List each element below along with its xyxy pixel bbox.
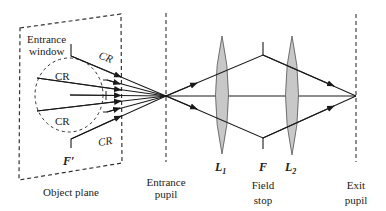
lower-ray <box>166 96 356 138</box>
entrance-window-label: Entrance window <box>27 33 66 57</box>
lens-l2-label: L2 <box>285 161 296 178</box>
field-stop-label-line2: stop <box>243 194 283 206</box>
optical-system-diagram <box>0 0 386 211</box>
cr-label-lower-right: CR <box>97 134 113 148</box>
field-stop-label-line1: Field <box>243 179 283 191</box>
cr-label-lower-left: CR <box>55 115 70 127</box>
field-stop-f-label: F <box>259 161 267 173</box>
entrance-window-tick-bottom <box>71 96 166 148</box>
entrance-window-tick-top <box>71 44 166 96</box>
lens-l1-subscript: 1 <box>222 167 226 176</box>
exit-pupil-label: Exit pupil <box>339 179 373 206</box>
entrance-window-label-line2: window <box>27 45 66 57</box>
entrance-pupil-label-line2: pupil <box>141 188 191 200</box>
entrance-window-label-line1: Entrance <box>27 33 66 45</box>
object-plane-label: Object plane <box>41 186 101 198</box>
lens-l1-label: L1 <box>215 161 226 178</box>
exit-pupil-label-line1: Exit <box>339 179 373 191</box>
upper-ray <box>166 55 356 96</box>
field-stop-label: Field stop <box>243 179 283 206</box>
lens-l1 <box>216 36 229 154</box>
cr-label-upper-left: CR <box>55 70 70 82</box>
entrance-pupil-label-line1: Entrance <box>141 176 191 188</box>
entrance-pupil-label: Entrance pupil <box>141 176 191 200</box>
exit-pupil-label-line2: pupil <box>339 194 373 206</box>
f-prime-label: F′ <box>63 155 74 167</box>
ray <box>103 96 166 112</box>
lens-l2 <box>286 36 299 155</box>
lens-l2-subscript: 2 <box>292 167 296 176</box>
